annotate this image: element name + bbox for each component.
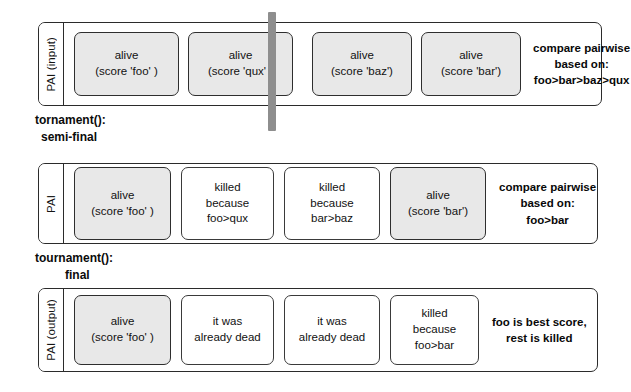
- annotation-line-1: compare pairwise: [499, 179, 596, 195]
- state-card[interactable]: it was already dead: [284, 295, 380, 365]
- row-label-pai-input: PAI (input): [39, 23, 64, 105]
- row-cards-pai-semifinal: alive (score 'foo' ) killed because foo>…: [64, 164, 597, 243]
- annotation-line-2: based on:: [533, 56, 630, 72]
- card-line-1: killed: [319, 180, 345, 196]
- card-line-3: foo>qux: [207, 211, 248, 227]
- annotation-line-2: based on:: [499, 195, 596, 211]
- row-cards-pai-input: alive (score 'foo' ) alive (score 'qux' …: [64, 23, 630, 105]
- caption-line-2: semi-final: [41, 129, 106, 146]
- state-card[interactable]: alive (score 'foo' ): [74, 167, 171, 240]
- state-card[interactable]: alive (score 'baz'): [312, 32, 412, 96]
- bracket-split-bar: [268, 12, 276, 131]
- card-line-2: (score 'baz'): [331, 64, 393, 80]
- state-card[interactable]: alive (score 'bar'): [421, 32, 521, 96]
- card-line-1: it was: [317, 314, 346, 330]
- annotation-line-2: rest is killed: [492, 330, 587, 346]
- annotation-line-3: foo>bar>baz>qux: [533, 72, 630, 88]
- annotation-line-1: compare pairwise: [533, 40, 630, 56]
- row-label-text: PAI (input): [45, 37, 57, 92]
- row-cards-pai-output: alive (score 'foo' ) it was already dead…: [64, 289, 597, 371]
- row-pai-input: PAI (input) alive (score 'foo' ) alive (…: [38, 22, 602, 106]
- annotation-line-1: foo is best score,: [492, 314, 587, 330]
- card-line-1: alive: [459, 48, 483, 64]
- caption-semi-final: tornament(): semi-final: [35, 112, 106, 145]
- card-line-2: because: [206, 196, 249, 212]
- state-card[interactable]: killed because foo>bar: [390, 295, 479, 365]
- row-pai-semifinal: PAI alive (score 'foo' ) killed because …: [38, 163, 598, 244]
- caption-line-2: final: [65, 267, 113, 284]
- annotation-line-3: foo>bar: [499, 212, 596, 228]
- card-line-1: alive: [111, 314, 135, 330]
- card-line-1: killed: [421, 306, 447, 322]
- card-line-3: foo>bar: [415, 338, 454, 354]
- tournament-diagram: PAI (input) alive (score 'foo' ) alive (…: [0, 0, 631, 392]
- card-line-2: (score 'foo' ): [95, 64, 158, 80]
- card-line-1: killed: [214, 180, 240, 196]
- caption-line-1: tornament():: [35, 113, 106, 127]
- state-card[interactable]: killed because bar>baz: [284, 167, 380, 240]
- state-card[interactable]: alive (score 'foo' ): [74, 32, 179, 96]
- card-line-2: (score 'foo' ): [91, 204, 154, 220]
- card-line-1: alive: [111, 188, 135, 204]
- card-line-1: alive: [426, 188, 450, 204]
- card-line-2: (score 'bar'): [441, 64, 501, 80]
- card-line-2: (score 'qux' ): [208, 64, 273, 80]
- state-card[interactable]: alive (score 'bar'): [390, 167, 486, 240]
- card-line-2: because: [413, 322, 456, 338]
- card-line-2: because: [310, 196, 353, 212]
- state-card[interactable]: alive (score 'foo' ): [74, 295, 171, 365]
- caption-final: tournament(): final: [35, 250, 113, 283]
- state-card[interactable]: alive (score 'qux' ): [188, 32, 293, 96]
- row-label-pai-output: PAI (output): [39, 289, 64, 371]
- state-card[interactable]: killed because foo>qux: [181, 167, 274, 240]
- row-label-text: PAI (output): [45, 299, 57, 361]
- card-line-2: (score 'bar'): [408, 204, 468, 220]
- card-line-2: already dead: [194, 330, 261, 346]
- row-annotation: foo is best score, rest is killed: [492, 314, 587, 347]
- card-line-1: alive: [350, 48, 374, 64]
- row-label-pai-semifinal: PAI: [39, 164, 64, 243]
- state-card[interactable]: it was already dead: [181, 295, 274, 365]
- row-label-text: PAI: [45, 195, 57, 213]
- row-annotation: compare pairwise based on: foo>bar>baz>q…: [533, 40, 630, 89]
- row-pai-output: PAI (output) alive (score 'foo' ) it was…: [38, 288, 598, 372]
- card-line-2: (score 'foo' ): [91, 330, 154, 346]
- card-line-1: alive: [115, 48, 139, 64]
- card-line-1: alive: [229, 48, 253, 64]
- card-line-1: it was: [213, 314, 242, 330]
- card-line-3: bar>baz: [311, 211, 353, 227]
- caption-line-1: tournament():: [35, 251, 113, 265]
- card-line-2: already dead: [299, 330, 366, 346]
- row-annotation: compare pairwise based on: foo>bar: [499, 179, 596, 228]
